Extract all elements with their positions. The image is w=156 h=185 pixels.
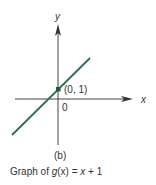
subfigure-label: (b) <box>54 151 66 161</box>
origin-label: 0 <box>62 103 68 113</box>
point-label: (0, 1) <box>64 85 87 95</box>
x-axis-label: x <box>141 95 146 105</box>
caption: Graph of g(x) = x + 1 <box>10 167 102 177</box>
function-line <box>12 58 90 135</box>
point-marker <box>56 87 61 92</box>
caption-rest: + 1 <box>85 166 102 177</box>
caption-equals: = <box>69 166 80 177</box>
caption-argument: (x) <box>57 166 69 177</box>
y-axis-label: y <box>55 12 60 22</box>
caption-prefix: Graph of <box>10 166 52 177</box>
